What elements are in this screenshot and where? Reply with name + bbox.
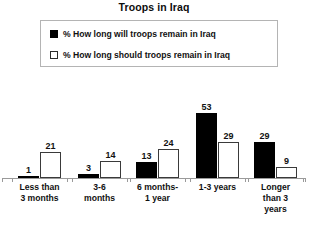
bar-group: 299 [254,72,297,178]
bar-value-label: 21 [40,141,61,151]
bar [196,113,217,178]
filled-square-icon [50,30,58,38]
bar-value-label: 53 [196,102,217,112]
chart-title: Troops in Iraq [0,1,308,13]
legend-item-label: % How long will troops remain in Iraq [63,29,216,39]
bar [136,162,157,178]
bar-group: 121 [18,72,61,178]
bar [18,176,39,178]
bar [40,152,61,178]
bar-value-label: 3 [78,163,99,173]
bar-value-label: 29 [218,131,239,141]
plot-area: 12131413245329299 [0,72,308,179]
bar [158,149,179,178]
bar-chart: Troops in Iraq % How long will troops re… [0,0,308,229]
bar-value-label: 24 [158,138,179,148]
bar [254,142,275,178]
bar-value-label: 13 [136,151,157,161]
bar-value-label: 14 [100,150,121,160]
bar-value-label: 29 [254,131,275,141]
bar-value-label: 9 [276,156,297,166]
bar [78,174,99,178]
bar-group: 314 [78,72,121,178]
bar [276,167,297,178]
x-axis-line [2,178,306,179]
x-axis-category-labels: Less than 3 months3-6 months6 months- 1 … [0,182,308,228]
bar [100,161,121,178]
bar-value-label: 1 [18,165,39,175]
bar-group: 5329 [196,72,239,178]
category-label: Longer than 3 years [239,182,309,215]
legend-item-should-remain: % How long should troops remain in Iraq [50,49,230,61]
chart-legend: % How long will troops remain in Iraq % … [40,20,278,67]
legend-item-label: % How long should troops remain in Iraq [63,50,230,60]
bar-group: 1324 [136,72,179,178]
hollow-square-icon [50,51,58,59]
bar [218,142,239,178]
legend-item-will-remain: % How long will troops remain in Iraq [50,28,216,40]
